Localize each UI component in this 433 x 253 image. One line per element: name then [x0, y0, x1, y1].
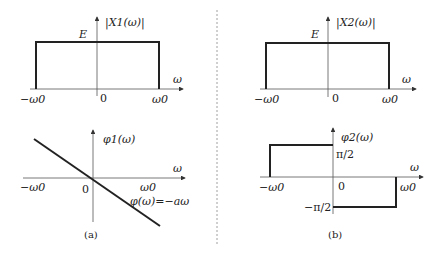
- tick-origin: 0: [332, 92, 339, 105]
- tick-lower: −π/2: [304, 201, 331, 214]
- phase-annotation: φ(ω)=−aω: [130, 195, 189, 208]
- tick-origin: 0: [338, 180, 345, 193]
- tick-right: ω0: [382, 93, 398, 106]
- y-axis-label: φ2(ω): [341, 131, 373, 144]
- magnitude-curve: [36, 42, 159, 89]
- panel-a-phase-plot: φ1(ω) ω −ω0 0 ω0 φ(ω)=−aω (a): [20, 130, 189, 240]
- level-label: E: [78, 28, 87, 41]
- tick-upper: π/2: [336, 148, 354, 161]
- panel-b-phase-plot: φ2(ω) π/2 ω −ω0 0 ω0 −π/2 (b): [259, 128, 423, 240]
- magnitude-curve: [266, 43, 389, 89]
- tick-origin: 0: [100, 92, 107, 105]
- y-axis-label: φ1(ω): [103, 133, 135, 146]
- tick-left: −ω0: [20, 181, 45, 194]
- tick-left: −ω0: [20, 93, 45, 106]
- caption-a: (a): [84, 229, 98, 240]
- tick-left: −ω0: [259, 181, 284, 194]
- x-axis-label: ω: [402, 73, 411, 86]
- tick-right: ω0: [140, 181, 156, 194]
- y-axis-label: |X2(ω)|: [336, 16, 376, 30]
- x-axis-label: ω: [173, 73, 182, 86]
- y-axis-label: |X1(ω)|: [105, 16, 145, 30]
- x-axis-label: ω: [410, 161, 419, 174]
- x-axis-label: ω: [173, 162, 182, 175]
- level-label: E: [310, 28, 319, 41]
- panel-a-magnitude-plot: |X1(ω)| E ω −ω0 0 ω0: [20, 16, 183, 106]
- tick-left: −ω0: [254, 93, 279, 106]
- tick-origin: 0: [82, 183, 89, 196]
- figure: |X1(ω)| E ω −ω0 0 ω0 φ1(ω) ω −ω0 0 ω0 φ(…: [0, 0, 433, 253]
- tick-right: ω0: [152, 93, 168, 106]
- panel-b-magnitude-plot: |X2(ω)| E ω −ω0 0 ω0: [254, 16, 416, 106]
- caption-b: (b): [328, 229, 342, 240]
- tick-right: ω0: [400, 181, 416, 194]
- phase-positive-step: [270, 145, 333, 177]
